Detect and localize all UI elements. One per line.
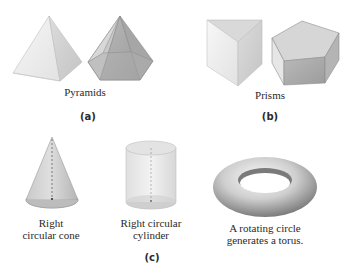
- right-circular-cylinder: [126, 141, 176, 209]
- torus: [213, 157, 317, 217]
- triangular-prism: [207, 20, 262, 86]
- figure-tag-a: (a): [70, 111, 106, 122]
- figure-tag-c: (c): [134, 252, 170, 263]
- torus-caption-line1: A rotating circle: [215, 222, 315, 234]
- cone-caption-line2: circular cone: [6, 229, 96, 241]
- cone-caption: Right circular cone: [6, 217, 96, 241]
- right-circular-cone: [26, 137, 78, 208]
- cone-caption-line1: Right: [6, 217, 96, 229]
- pyramids-caption: Pyramids: [40, 86, 130, 98]
- cylinder-caption: Right circular cylinder: [106, 217, 196, 241]
- torus-caption-line2: generates a torus.: [215, 234, 315, 246]
- prisms-caption: Prisms: [230, 89, 310, 101]
- cylinder-caption-line2: cylinder: [106, 229, 196, 241]
- pentagonal-pyramid: [88, 16, 153, 80]
- figure-tag-b: (b): [252, 111, 288, 122]
- square-pyramid: [13, 16, 82, 81]
- pentagonal-prism: [272, 21, 339, 85]
- cylinder-caption-line1: Right circular: [106, 217, 196, 229]
- torus-caption: A rotating circle generates a torus.: [215, 222, 315, 246]
